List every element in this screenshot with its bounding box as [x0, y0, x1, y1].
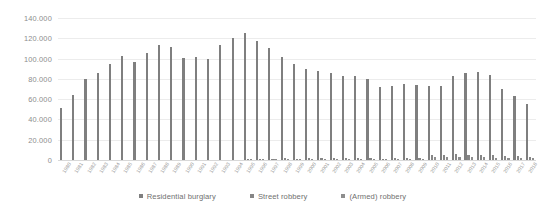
- bar: [428, 86, 430, 160]
- bar-group: [401, 18, 413, 160]
- bar-group: [193, 18, 205, 160]
- bar-group: [315, 18, 327, 160]
- bar-group: [132, 18, 144, 160]
- bar: [415, 85, 417, 160]
- x-axis-tick-label: 2001: [318, 161, 329, 174]
- x-axis-tick-label: 2006: [380, 161, 391, 174]
- plot-area: [58, 18, 536, 160]
- bar: [366, 79, 368, 160]
- y-axis-tick-label: 100.000: [24, 54, 52, 63]
- x-axis-tick-label: 2005: [367, 161, 378, 174]
- bar-group: [107, 18, 119, 160]
- bar-group: [413, 18, 425, 160]
- bar-group: [291, 18, 303, 160]
- x-axis-tick-label: 2002: [331, 161, 342, 174]
- bar: [308, 158, 310, 160]
- bar: [489, 75, 491, 160]
- bar-group: [462, 18, 474, 160]
- x-axis-tick-label: 2007: [392, 161, 403, 174]
- bar: [354, 76, 356, 160]
- bar: [452, 76, 454, 160]
- x-axis-tick-label: 1995: [245, 161, 256, 174]
- bar-group: [475, 18, 487, 160]
- bar: [406, 158, 408, 160]
- bar: [207, 59, 209, 160]
- x-axis-tick-label: 2014: [478, 161, 489, 174]
- bar-group: [499, 18, 511, 160]
- bar-group: [511, 18, 523, 160]
- bar-group: [168, 18, 180, 160]
- y-axis-tick-label: 80.000: [28, 74, 52, 83]
- x-axis-tick-label: 1985: [122, 161, 133, 174]
- x-axis-tick-label: 1991: [196, 161, 207, 174]
- x-axis-tick-label: 2010: [429, 161, 440, 174]
- bar: [480, 155, 482, 160]
- x-axis-tick-label: 2018: [527, 161, 538, 174]
- bar: [320, 158, 322, 160]
- bar-group: [83, 18, 95, 160]
- x-axis-tick-label: 1982: [85, 161, 96, 174]
- bar: [391, 86, 393, 160]
- legend-swatch-icon: [139, 194, 143, 198]
- bar: [333, 158, 335, 160]
- bar: [434, 157, 436, 160]
- bar: [293, 64, 295, 160]
- legend-item[interactable]: Street robbery: [250, 192, 308, 201]
- bar-group: [95, 18, 107, 160]
- x-axis-tick-label: 2009: [416, 161, 427, 174]
- y-axis-tick-label: 120.000: [24, 34, 52, 43]
- bar: [529, 157, 531, 160]
- bar: [455, 154, 457, 160]
- bars-layer: [58, 18, 536, 160]
- bar-group: [340, 18, 352, 160]
- bar: [146, 53, 148, 161]
- x-axis-tick-label: 1984: [110, 161, 121, 174]
- bar: [72, 95, 74, 160]
- x-axis-tick-label: 1988: [159, 161, 170, 174]
- legend-item[interactable]: (Armed) robbery: [341, 192, 406, 201]
- bar: [526, 104, 528, 160]
- bar-group: [70, 18, 82, 160]
- bar-group: [58, 18, 70, 160]
- bar: [330, 73, 332, 160]
- x-axis: 1980198119821983198419851986198719881989…: [58, 161, 536, 187]
- bar: [440, 86, 442, 160]
- x-axis-tick-label: 1993: [220, 161, 231, 174]
- bar: [446, 157, 448, 160]
- bar: [256, 41, 258, 160]
- bar: [244, 33, 246, 160]
- bar: [170, 47, 172, 160]
- x-axis-tick-label: 2016: [502, 161, 513, 174]
- bar: [284, 158, 286, 160]
- bar-group: [205, 18, 217, 160]
- bar: [247, 159, 249, 160]
- bar-group: [364, 18, 376, 160]
- bar: [133, 62, 135, 160]
- bar-chart: 140.000120.000100.00080.00060.00040.0002…: [0, 0, 545, 208]
- x-axis-tick-label: 1989: [171, 161, 182, 174]
- x-axis-tick-label: 2013: [465, 161, 476, 174]
- x-axis-tick-label: 1997: [269, 161, 280, 174]
- bar-group: [389, 18, 401, 160]
- legend-item[interactable]: Residential burglary: [139, 192, 216, 201]
- bar: [369, 158, 371, 160]
- bar: [483, 157, 485, 160]
- bar-group: [438, 18, 450, 160]
- bar-group: [119, 18, 131, 160]
- x-axis-tick-label: 1980: [61, 161, 72, 174]
- bar: [403, 84, 405, 160]
- x-axis-tick-label: 1998: [282, 161, 293, 174]
- bar: [268, 48, 270, 160]
- bar: [296, 159, 298, 160]
- y-axis-tick-label: 20.000: [28, 135, 52, 144]
- bar-group: [144, 18, 156, 160]
- bar-group: [279, 18, 291, 160]
- bar: [394, 158, 396, 160]
- x-axis-tick-label: 1994: [232, 161, 243, 174]
- bar: [97, 73, 99, 160]
- bar: [357, 158, 359, 160]
- x-axis-tick-label: 1983: [98, 161, 109, 174]
- legend-label: Street robbery: [258, 192, 308, 201]
- x-axis-tick-label: 1996: [257, 161, 268, 174]
- x-axis-tick-label: 2000: [306, 161, 317, 174]
